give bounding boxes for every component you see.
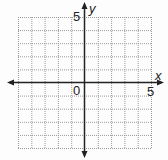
- y-tick-label-5: 5: [73, 10, 80, 23]
- coordinate-plane: [0, 0, 168, 160]
- x-axis-label: x: [155, 69, 162, 82]
- origin-label: 0: [73, 84, 80, 97]
- axes: [7, 2, 164, 158]
- x-tick-label-5: 5: [147, 85, 154, 98]
- y-axis-label: y: [89, 2, 96, 15]
